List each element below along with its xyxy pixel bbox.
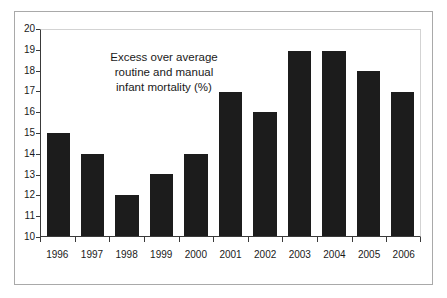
x-axis-tick-label: 1999 (144, 248, 179, 262)
x-axis-tick (144, 237, 179, 242)
x-axis-labels: 1996199719981999200020012002200320042005… (40, 248, 421, 262)
bar[interactable] (253, 112, 276, 236)
x-axis-tick-label: 1996 (40, 248, 75, 262)
bar[interactable] (184, 154, 207, 236)
y-axis: 2019181716151413121110 (15, 29, 40, 237)
bar-slot (386, 30, 420, 236)
bar[interactable] (81, 154, 104, 236)
x-axis-tick-mark (282, 237, 283, 242)
x-axis-tick (179, 237, 214, 242)
bar[interactable] (47, 133, 70, 236)
y-axis-tick-label: 17 (24, 84, 35, 97)
x-axis-tick-mark (352, 237, 353, 242)
x-axis-tick-mark (248, 237, 249, 242)
bar[interactable] (150, 174, 173, 236)
bar[interactable] (391, 92, 414, 236)
x-axis-tick-mark (40, 237, 41, 242)
y-axis-tick-label: 14 (24, 147, 35, 160)
y-axis-tick-label: 10 (24, 230, 35, 243)
bar-slot (248, 30, 282, 236)
x-axis-tick-mark (109, 237, 110, 242)
x-axis-tick (213, 237, 248, 242)
x-axis-tick-mark (179, 237, 180, 242)
x-axis-tick (386, 237, 421, 242)
chart-annotation-line: infant mortality (%) (79, 80, 249, 95)
chart-annotation: Excess over averageroutine and manualinf… (79, 50, 249, 95)
x-axis-tick-label: 2004 (317, 248, 352, 262)
x-axis-tick-label: 2005 (352, 248, 387, 262)
x-axis-tick-mark (386, 237, 387, 242)
bar-slot (351, 30, 385, 236)
x-axis-tick (109, 237, 144, 242)
y-axis-tick-label: 11 (25, 209, 35, 222)
x-axis-tick-label: 2000 (179, 248, 214, 262)
x-axis-tick-label: 2003 (282, 248, 317, 262)
bar[interactable] (219, 92, 242, 236)
y-axis-tick-label: 19 (24, 43, 35, 56)
x-axis-tick-label: 2001 (213, 248, 248, 262)
y-axis-tick-label: 12 (24, 188, 35, 201)
x-axis-tick (352, 237, 387, 242)
x-axis-tick-label: 2002 (248, 248, 283, 262)
bar-slot (41, 30, 75, 236)
bar-slot (317, 30, 351, 236)
x-axis-tick-mark (317, 237, 318, 242)
y-axis-tick-label: 18 (24, 64, 35, 77)
x-axis-tick (248, 237, 283, 242)
y-axis-tick-label: 20 (24, 22, 35, 35)
bar[interactable] (288, 51, 311, 236)
bar-chart: 2019181716151413121110 Excess over avera… (15, 12, 434, 286)
x-axis-tick-label: 1998 (109, 248, 144, 262)
bar[interactable] (115, 195, 138, 236)
x-axis-tickmarks (40, 237, 421, 242)
x-axis-tick (40, 237, 75, 242)
bar[interactable] (322, 51, 345, 236)
bar[interactable] (357, 71, 380, 236)
figure-frame: 2019181716151413121110 Excess over avera… (14, 11, 433, 285)
x-axis-tick-mark (144, 237, 145, 242)
x-axis-tick-mark (213, 237, 214, 242)
chart-annotation-line: Excess over average (79, 50, 249, 65)
bar-slot (282, 30, 316, 236)
x-axis-tick-label: 1997 (75, 248, 110, 262)
y-axis-tick-label: 13 (24, 168, 35, 181)
plot-area: Excess over averageroutine and manualinf… (40, 29, 421, 237)
x-axis-tick (75, 237, 110, 242)
x-axis-tick-mark (75, 237, 76, 242)
x-axis-tick-mark (420, 237, 421, 242)
x-axis-tick (317, 237, 352, 242)
y-axis-tick-label: 16 (24, 105, 35, 118)
x-axis-tick-label: 2006 (386, 248, 421, 262)
chart-annotation-line: routine and manual (79, 65, 249, 80)
y-axis-tick-label: 15 (24, 126, 35, 139)
x-axis-tick (282, 237, 317, 242)
